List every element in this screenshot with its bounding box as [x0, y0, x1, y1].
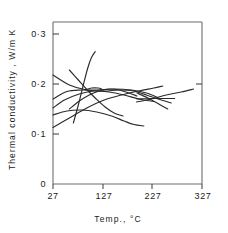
y-tick-label-0-1: 0·1	[31, 129, 46, 139]
x-tick-label-27: 27	[47, 191, 58, 201]
data-curve-curve-4	[53, 110, 144, 126]
y-tick-marks	[53, 34, 59, 134]
chart-figure: 0·3 0·2 0·1 0 27 127 227 327 Thermal con…	[0, 0, 228, 233]
thermal-conductivity-line-chart: 0·3 0·2 0·1 0 27 127 227 327 Thermal con…	[0, 0, 228, 233]
x-tick-label-127: 127	[96, 191, 113, 201]
y-tick-label-0: 0	[40, 179, 46, 189]
data-curve-curve-11	[137, 98, 175, 99]
plot-frame	[53, 22, 202, 184]
y-tick-label-0-3: 0·3	[31, 29, 46, 39]
data-curve-curve-9	[136, 89, 193, 102]
x-tick-marks	[53, 184, 202, 189]
y-tick-label-0-2: 0·2	[31, 79, 46, 89]
x-tick-label-227: 227	[145, 191, 162, 201]
x-axis-title: Temp., °C	[94, 214, 141, 224]
y-axis-title: Thermal conductivity , W/m K	[7, 29, 17, 170]
x-tick-label-327: 327	[195, 191, 212, 201]
data-curves-group	[53, 52, 194, 128]
